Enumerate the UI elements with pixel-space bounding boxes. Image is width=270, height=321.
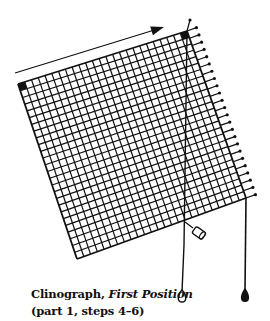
caption-title: Clinograph: [31, 287, 101, 301]
clinograph-diagram: [0, 0, 270, 321]
woven-grid: [18, 31, 246, 259]
teardrop-weight-icon: [241, 288, 249, 302]
figure-caption: Clinograph, First Position (part 1, step…: [31, 286, 193, 320]
caption-steps: (part 1, steps 4–6): [31, 303, 193, 320]
weight-cylinder-icon: [192, 226, 206, 239]
caption-line-1: Clinograph, First Position: [31, 286, 193, 303]
hanging-strings: [182, 31, 246, 292]
caption-position: First Position: [109, 287, 193, 301]
